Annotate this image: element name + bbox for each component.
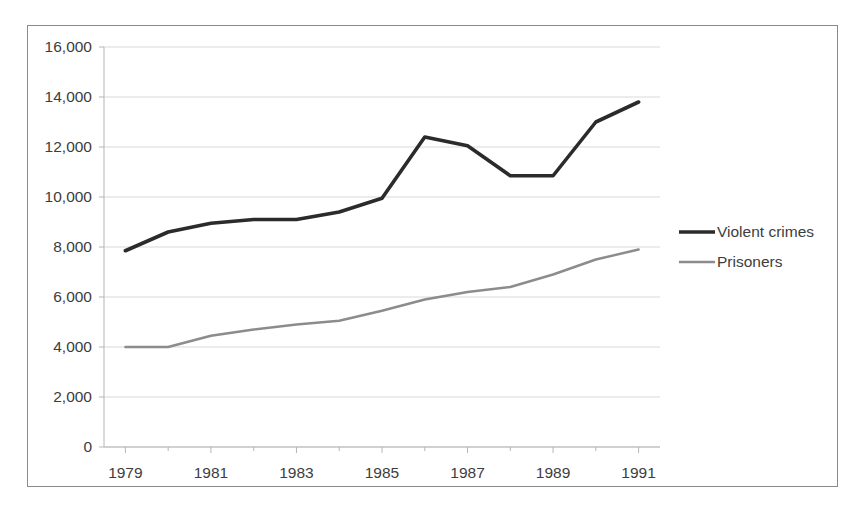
legend-label-prisoners: Prisoners (717, 254, 782, 270)
y-tick-label-16,000: 16,000 (45, 39, 92, 55)
x-tick-label-1979: 1979 (85, 465, 165, 481)
legend-label-violent-crimes: Violent crimes (717, 224, 814, 240)
y-tick-label-0: 0 (83, 439, 92, 455)
y-tick-label-2,000: 2,000 (53, 389, 92, 405)
x-tick-label-1987: 1987 (428, 465, 508, 481)
y-tick-label-10,000: 10,000 (45, 189, 92, 205)
y-tick-label-6,000: 6,000 (53, 289, 92, 305)
y-tick-label-4,000: 4,000 (53, 339, 92, 355)
x-tick-label-1981: 1981 (171, 465, 251, 481)
x-tick-label-1985: 1985 (342, 465, 422, 481)
x-tick-label-1983: 1983 (256, 465, 336, 481)
x-tick-label-1989: 1989 (513, 465, 593, 481)
y-tick-label-8,000: 8,000 (53, 239, 92, 255)
y-tick-label-12,000: 12,000 (45, 139, 92, 155)
y-tick-label-14,000: 14,000 (45, 89, 92, 105)
x-tick-label-1991: 1991 (599, 465, 679, 481)
